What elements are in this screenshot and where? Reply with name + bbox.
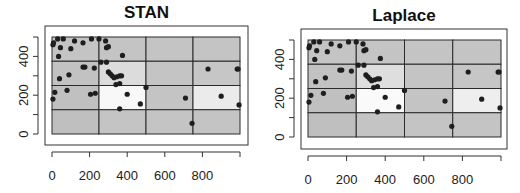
grid-cell — [356, 113, 404, 137]
data-point — [496, 69, 501, 74]
grid-cell — [193, 86, 240, 110]
data-point — [93, 91, 98, 96]
data-point — [360, 41, 365, 46]
data-point — [96, 36, 101, 41]
data-point — [189, 121, 194, 126]
grid-cell — [308, 89, 356, 113]
data-point — [80, 40, 85, 45]
data-point — [113, 82, 118, 87]
y-tick-label: 400 — [272, 49, 287, 71]
data-point — [313, 79, 318, 84]
grid-cell — [405, 40, 453, 64]
data-point — [125, 92, 130, 97]
x-tick-label: 200 — [336, 172, 358, 187]
grid-cell — [356, 64, 404, 88]
x-tick-label: 600 — [413, 172, 435, 187]
data-point — [98, 60, 103, 65]
y-tick-label: 200 — [16, 84, 31, 106]
data-point — [236, 102, 241, 107]
grid-cell — [308, 64, 356, 88]
x-tick-label: 600 — [154, 168, 176, 183]
data-point — [138, 101, 143, 106]
data-point — [92, 65, 97, 70]
data-point — [325, 49, 330, 54]
laplace-panel: Laplace 02004000200400600800 — [256, 0, 516, 193]
data-point — [56, 54, 61, 59]
data-point — [442, 99, 447, 104]
grid-cell — [99, 61, 146, 85]
data-point — [50, 96, 55, 101]
y-tick-label: 400 — [16, 46, 31, 68]
data-point — [58, 45, 63, 50]
data-point — [312, 57, 317, 62]
data-point — [375, 109, 380, 114]
data-point — [66, 72, 71, 77]
data-point — [61, 36, 66, 41]
x-tick-label: 800 — [452, 172, 474, 187]
x-tick-label: 0 — [304, 172, 311, 187]
data-point — [51, 40, 56, 45]
data-point — [323, 75, 328, 80]
data-point — [356, 63, 361, 68]
data-point — [236, 66, 241, 71]
data-point — [466, 69, 471, 74]
data-point — [57, 76, 62, 81]
stan-panel: STAN 02004000200400600800 — [0, 0, 260, 193]
x-tick-label: 400 — [374, 172, 396, 187]
data-point — [350, 94, 355, 99]
data-point — [396, 104, 401, 109]
data-point — [106, 44, 111, 49]
data-point — [119, 73, 124, 78]
data-point — [346, 39, 351, 44]
data-point — [120, 53, 125, 58]
data-point — [371, 85, 376, 90]
data-point — [329, 41, 334, 46]
data-point — [378, 56, 383, 61]
data-point — [311, 39, 316, 44]
data-point — [104, 60, 109, 65]
grid-cell — [453, 64, 501, 88]
data-point — [349, 68, 354, 73]
data-point — [402, 88, 407, 93]
y-tick-label: 200 — [272, 87, 287, 109]
data-point — [82, 64, 87, 69]
x-tick-label: 400 — [116, 168, 138, 183]
data-point — [89, 36, 94, 41]
x-tick-label: 800 — [192, 168, 214, 183]
data-point — [361, 63, 366, 68]
data-point — [306, 99, 311, 104]
grid-cell — [52, 86, 99, 110]
grid-cell — [405, 64, 453, 88]
grid-cell — [356, 89, 404, 113]
data-point — [479, 97, 484, 102]
data-point — [308, 93, 313, 98]
grid-cell — [308, 113, 356, 137]
data-point — [307, 43, 312, 48]
data-point — [55, 36, 60, 41]
grid-cell — [52, 110, 99, 134]
data-point — [339, 67, 344, 72]
data-point — [314, 48, 319, 53]
laplace-plot: 02004000200400600800 — [256, 0, 520, 193]
data-point — [497, 105, 502, 110]
data-point — [88, 92, 93, 97]
data-point — [363, 47, 368, 52]
data-point — [68, 46, 73, 51]
data-point — [321, 91, 326, 96]
grid-cell — [52, 61, 99, 85]
grid-cell — [453, 113, 501, 137]
stan-plot: 02004000200400600800 — [0, 0, 260, 193]
grid-cell — [146, 37, 193, 61]
data-point — [449, 124, 454, 129]
data-point — [383, 95, 388, 100]
data-point — [64, 88, 69, 93]
data-point — [205, 66, 210, 71]
data-point — [143, 85, 148, 90]
data-point — [72, 38, 77, 43]
data-point — [52, 90, 57, 95]
x-tick-label: 0 — [48, 168, 55, 183]
grid-cell — [193, 61, 240, 85]
data-point — [183, 96, 188, 101]
y-tick-label: 0 — [272, 133, 287, 140]
data-point — [345, 95, 350, 100]
